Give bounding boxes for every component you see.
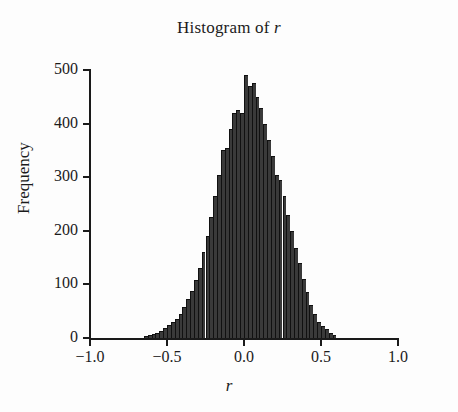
histogram-bars bbox=[90, 70, 398, 338]
chart-title: Histogram of r bbox=[0, 18, 458, 38]
y-tick-label: 300 bbox=[32, 167, 78, 185]
histogram-figure: Histogram of r Frequency r 0100200300400… bbox=[0, 0, 458, 412]
plot-area bbox=[90, 70, 398, 338]
x-tick-label: −0.5 bbox=[137, 348, 197, 366]
x-tick-mark bbox=[166, 338, 168, 346]
x-tick-label: 1.0 bbox=[368, 348, 428, 366]
x-tick-label: 0.5 bbox=[291, 348, 351, 366]
y-tick-label: 400 bbox=[32, 114, 78, 132]
y-tick-label: 500 bbox=[32, 60, 78, 78]
x-tick-mark bbox=[243, 338, 245, 346]
y-axis-title: Frequency bbox=[14, 88, 34, 268]
x-tick-mark bbox=[320, 338, 322, 346]
y-tick-label: 100 bbox=[32, 274, 78, 292]
histogram-bar bbox=[333, 335, 337, 338]
x-tick-mark bbox=[397, 338, 399, 346]
chart-title-text: Histogram of bbox=[177, 18, 274, 37]
y-tick-label: 0 bbox=[32, 328, 78, 346]
x-tick-label: 0.0 bbox=[214, 348, 274, 366]
chart-title-variable: r bbox=[274, 18, 281, 37]
x-tick-label: −1.0 bbox=[60, 348, 120, 366]
x-axis-title: r bbox=[0, 376, 458, 396]
y-tick-label: 200 bbox=[32, 221, 78, 239]
x-tick-mark bbox=[89, 338, 91, 346]
